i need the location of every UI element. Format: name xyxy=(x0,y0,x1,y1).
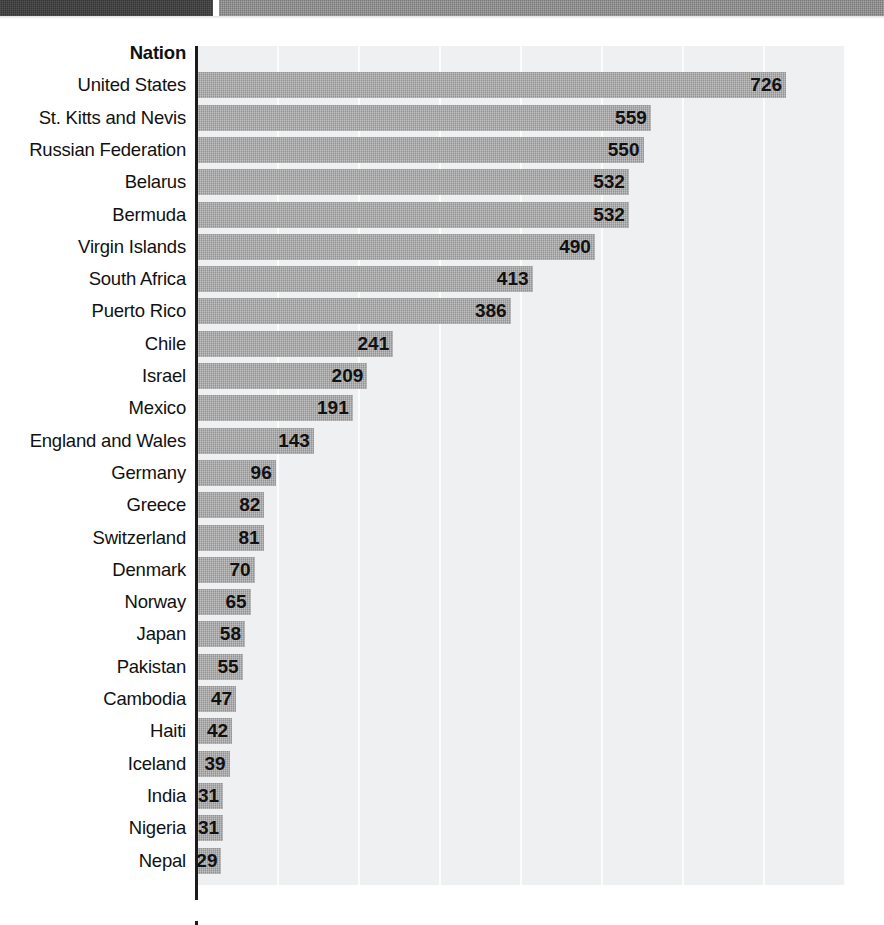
column-header-nation: Nation xyxy=(0,40,186,66)
bar-row-label: South Africa xyxy=(0,266,186,292)
bar-row-label: Denmark xyxy=(0,557,186,583)
bar-value-label: 42 xyxy=(194,718,228,744)
bar-row: Nigeria31 xyxy=(0,815,884,841)
banner-strip-light xyxy=(219,0,884,16)
bar-row: Puerto Rico386 xyxy=(0,298,884,324)
bar-row-label: Iceland xyxy=(0,751,186,777)
bar-row: Greece82 xyxy=(0,492,884,518)
bar-value-label: 241 xyxy=(348,331,389,357)
bar-row-label: Pakistan xyxy=(0,654,186,680)
bar-value-label: 386 xyxy=(466,298,507,324)
bar-row-label: Haiti xyxy=(0,718,186,744)
bar-row: India31 xyxy=(0,783,884,809)
bar-row-label: Mexico xyxy=(0,395,186,421)
bar-row-label: Israel xyxy=(0,363,186,389)
bar-row: Virgin Islands490 xyxy=(0,234,884,260)
bar-row: Bermuda532 xyxy=(0,202,884,228)
top-banner xyxy=(0,0,884,16)
bar xyxy=(198,72,786,98)
bar xyxy=(198,266,533,292)
bar-row-label: Greece xyxy=(0,492,186,518)
bar-row: United States726 xyxy=(0,72,884,98)
bar xyxy=(198,234,595,260)
bar-row-label: India xyxy=(0,783,186,809)
bar-row: Russian Federation550 xyxy=(0,137,884,163)
bar-row-label: England and Wales xyxy=(0,428,186,454)
bar-value-label: 559 xyxy=(606,105,647,131)
bar-row-label: United States xyxy=(0,72,186,98)
bar-row: Israel209 xyxy=(0,363,884,389)
bar-value-label: 532 xyxy=(584,169,625,195)
bar-value-label: 47 xyxy=(198,686,232,712)
chart-header-row: Nation xyxy=(0,40,884,66)
bar-row-label: Norway xyxy=(0,589,186,615)
bar-row: South Africa413 xyxy=(0,266,884,292)
bar-value-label: 490 xyxy=(550,234,591,260)
bar-value-label: 70 xyxy=(217,557,251,583)
bar-row-label: Bermuda xyxy=(0,202,186,228)
bar-value-label: 413 xyxy=(488,266,529,292)
bar-value-label: 726 xyxy=(741,72,782,98)
bar-row-label: Virgin Islands xyxy=(0,234,186,260)
bar-row: Chile241 xyxy=(0,331,884,357)
bar-row: Mexico191 xyxy=(0,395,884,421)
bar-row-label: Switzerland xyxy=(0,525,186,551)
bar-row: Norway65 xyxy=(0,589,884,615)
bar-value-label: 31 xyxy=(185,815,219,841)
bar-value-label: 532 xyxy=(584,202,625,228)
bar xyxy=(198,202,629,228)
bar-value-label: 81 xyxy=(226,525,260,551)
bar-value-label: 82 xyxy=(226,492,260,518)
banner-strip-dark xyxy=(0,0,213,16)
bottom-padding xyxy=(0,900,884,921)
bar-row: Cambodia47 xyxy=(0,686,884,712)
bar-value-label: 96 xyxy=(238,460,272,486)
bar-value-label: 209 xyxy=(322,363,363,389)
bar-row-label: Japan xyxy=(0,621,186,647)
bar xyxy=(198,105,651,131)
bar-value-label: 143 xyxy=(269,428,310,454)
bar-row-label: Nigeria xyxy=(0,815,186,841)
bar-row: Germany96 xyxy=(0,460,884,486)
bar-value-label: 191 xyxy=(308,395,349,421)
bar-row-label: Puerto Rico xyxy=(0,298,186,324)
bar-row: Denmark70 xyxy=(0,557,884,583)
bar xyxy=(198,137,644,163)
bar-row-label: Nepal xyxy=(0,848,186,874)
bar xyxy=(198,169,629,195)
bar-value-label: 39 xyxy=(192,751,226,777)
bar-value-label: 65 xyxy=(213,589,247,615)
bar-value-label: 31 xyxy=(185,783,219,809)
bar xyxy=(198,298,511,324)
bar-chart: NationUnited States726St. Kitts and Nevi… xyxy=(0,40,884,900)
bar-row: England and Wales143 xyxy=(0,428,884,454)
bar-row: Belarus532 xyxy=(0,169,884,195)
bar-value-label: 29 xyxy=(183,848,217,874)
bar-row: St. Kitts and Nevis559 xyxy=(0,105,884,131)
bar-value-label: 550 xyxy=(599,137,640,163)
bar-value-label: 58 xyxy=(207,621,241,647)
bar-row-label: Chile xyxy=(0,331,186,357)
bar-value-label: 55 xyxy=(205,654,239,680)
bar-row: Nepal29 xyxy=(0,848,884,874)
bar-row: Japan58 xyxy=(0,621,884,647)
bar-row: Switzerland81 xyxy=(0,525,884,551)
bar-row-label: St. Kitts and Nevis xyxy=(0,105,186,131)
banner-shadow xyxy=(0,16,884,19)
bar-row: Haiti42 xyxy=(0,718,884,744)
bar-row: Iceland39 xyxy=(0,751,884,777)
bar-row-label: Germany xyxy=(0,460,186,486)
bar-row-label: Russian Federation xyxy=(0,137,186,163)
bar-row: Pakistan55 xyxy=(0,654,884,680)
bar-row-label: Belarus xyxy=(0,169,186,195)
bar-row-label: Cambodia xyxy=(0,686,186,712)
